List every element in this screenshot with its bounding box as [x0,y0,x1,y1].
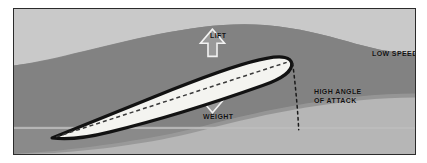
high-angle-of-attack-label-line2: OF ATTACK [314,97,357,104]
low-speed-label: LOW SPEED [372,50,416,59]
high-angle-of-attack-label-line1: HIGH ANGLE [314,88,362,95]
airfoil-diagram-figure: LIFT WEIGHT HIGH ANGLEOF ATTACK LOW SPEE… [0,0,427,163]
weight-label: WEIGHT [203,113,233,122]
diagram-canvas [14,9,415,154]
high-angle-of-attack-label: HIGH ANGLEOF ATTACK [314,88,362,106]
lift-label: LIFT [210,32,226,41]
diagram-plate: LIFT WEIGHT HIGH ANGLEOF ATTACK LOW SPEE… [13,8,416,155]
